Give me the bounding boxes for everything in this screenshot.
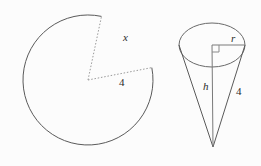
geometry-figure-canvas: x 4 r h 4 xyxy=(0,0,261,166)
circle-arc-label-x: x xyxy=(122,31,128,43)
figures-svg: x 4 r h 4 xyxy=(0,0,261,166)
right-angle-marker xyxy=(212,45,219,52)
circle-radius-label-4: 4 xyxy=(119,76,125,88)
cone-height-label-h: h xyxy=(203,80,209,92)
cone-radius-label-r: r xyxy=(231,32,236,44)
cone-left-slant-line xyxy=(179,45,213,147)
cone-slant-label-4: 4 xyxy=(236,85,242,97)
cone-figure: r h 4 xyxy=(179,23,245,147)
sector-radius-upper-dotted xyxy=(88,16,102,80)
circle-sector-figure: x 4 xyxy=(23,15,153,145)
cone-height-line xyxy=(212,45,213,147)
